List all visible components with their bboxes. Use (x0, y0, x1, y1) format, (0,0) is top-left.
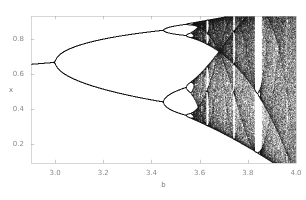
y-tick-label-0-6: 0.6 (0, 70, 24, 78)
y-tick-label-0-2: 0.2 (0, 140, 24, 148)
bifurcation-diagram-figure: 0.8 0.6 0.4 0.2 3.0 3.2 3.4 3.6 3.8 4.0 … (0, 0, 306, 200)
x-tick-label-3-4: 3.4 (146, 169, 157, 177)
x-tick-label-3-8: 3.8 (242, 169, 253, 177)
y-tick-label-0-4: 0.4 (0, 105, 24, 113)
x-axis-title: b (161, 181, 166, 189)
x-tick-label-3-2: 3.2 (98, 169, 109, 177)
x-tick-label-4-0: 4.0 (290, 169, 301, 177)
y-tick-label-0-8: 0.8 (0, 35, 24, 43)
x-tick-label-3-0: 3.0 (50, 169, 61, 177)
y-axis-title: x (9, 86, 13, 94)
x-tick-label-3-6: 3.6 (194, 169, 205, 177)
